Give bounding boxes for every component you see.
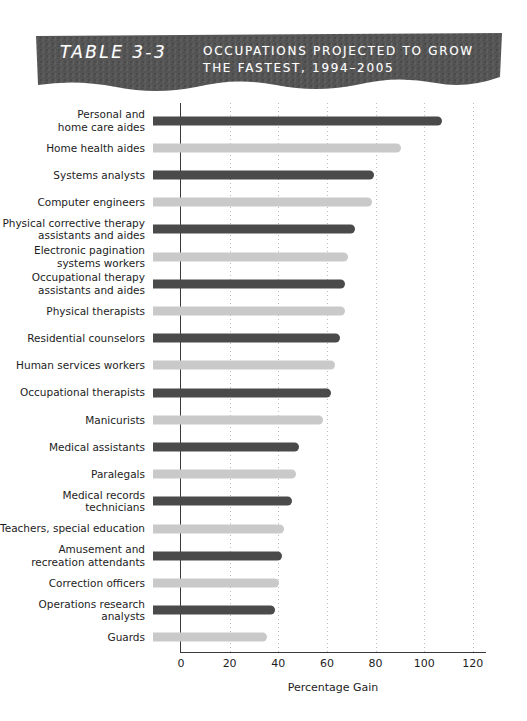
bar-row: Correction officers xyxy=(0,569,527,596)
bar-label-line1: Residential counselors xyxy=(0,332,145,345)
bar[interactable] xyxy=(153,633,267,642)
bar-label-line1: Manicurists xyxy=(0,414,145,427)
bar[interactable] xyxy=(153,170,374,179)
bar-label-line2: analysts xyxy=(0,610,145,623)
x-axis-ticks: 020406080100120 xyxy=(181,657,485,673)
x-tick-label-20: 20 xyxy=(223,657,237,670)
bar[interactable] xyxy=(153,524,284,533)
bar-chart: Personal andhome care aidesHome health a… xyxy=(0,103,527,721)
bar-row: Paralegals xyxy=(0,461,527,488)
bar-label-line1: Guards xyxy=(0,631,145,644)
bar-track xyxy=(153,491,527,511)
bar-label-line1: Personal and xyxy=(0,108,145,121)
bar-track xyxy=(153,219,527,239)
bar[interactable] xyxy=(153,334,340,343)
bar-row: Home health aides xyxy=(0,134,527,161)
x-tick-label-40: 40 xyxy=(271,657,285,670)
bar-track xyxy=(153,165,527,185)
bar[interactable] xyxy=(153,143,401,152)
bar[interactable] xyxy=(153,551,282,560)
bar[interactable] xyxy=(153,606,275,615)
bar-label: Medical assistants xyxy=(0,441,153,454)
bar-label: Personal andhome care aides xyxy=(0,108,153,133)
bar-label: Systems analysts xyxy=(0,169,153,182)
bar-row: Human services workers xyxy=(0,352,527,379)
bar-row: Medical assistants xyxy=(0,433,527,460)
bar[interactable] xyxy=(153,497,292,506)
bar[interactable] xyxy=(153,306,345,315)
bar-row: Occupational therapists xyxy=(0,379,527,406)
bar-label-line1: Electronic pagination xyxy=(0,244,145,257)
bar-label-line2: assistants and aides xyxy=(0,284,145,297)
bar[interactable] xyxy=(153,578,279,587)
bar-label-line1: Correction officers xyxy=(0,577,145,590)
bar-label-line1: Teachers, special education xyxy=(0,522,145,535)
bar-row: Medical recordstechnicians xyxy=(0,488,527,515)
bar-track xyxy=(153,192,527,212)
bar-track xyxy=(153,274,527,294)
bar-label-line1: Operations research xyxy=(0,598,145,611)
bar[interactable] xyxy=(153,415,323,424)
bar[interactable] xyxy=(153,279,345,288)
x-tick-label-0: 0 xyxy=(178,657,185,670)
bar-label: Operations researchanalysts xyxy=(0,598,153,623)
bar[interactable] xyxy=(153,116,442,125)
bar-row: Amusement andrecreation attendants xyxy=(0,542,527,569)
bar-track xyxy=(153,111,527,131)
bar-row: Physical therapists xyxy=(0,297,527,324)
bar-track xyxy=(153,138,527,158)
bar-label: Physical corrective therapyassistants an… xyxy=(0,217,153,242)
bar-track xyxy=(153,546,527,566)
bar-label: Medical recordstechnicians xyxy=(0,489,153,514)
bar-label: Human services workers xyxy=(0,359,153,372)
bar-label: Teachers, special education xyxy=(0,522,153,535)
bar-track xyxy=(153,600,527,620)
bar[interactable] xyxy=(153,225,355,234)
bar-row: Residential counselors xyxy=(0,325,527,352)
bar-label-line1: Physical corrective therapy xyxy=(0,217,145,230)
bar-label-line1: Occupational therapy xyxy=(0,271,145,284)
bar-label-line1: Human services workers xyxy=(0,359,145,372)
bar-row: Electronic paginationsystems workers xyxy=(0,243,527,270)
bar-row: Manicurists xyxy=(0,406,527,433)
bar-row: Systems analysts xyxy=(0,161,527,188)
bar-label-line2: home care aides xyxy=(0,121,145,134)
x-tick-label-80: 80 xyxy=(369,657,383,670)
bar-track xyxy=(153,464,527,484)
bar-row: Operations researchanalysts xyxy=(0,597,527,624)
bar-label: Residential counselors xyxy=(0,332,153,345)
bar-label: Manicurists xyxy=(0,414,153,427)
bar-label: Occupational therapyassistants and aides xyxy=(0,271,153,296)
bar-row: Computer engineers xyxy=(0,189,527,216)
bar-label-line1: Physical therapists xyxy=(0,305,145,318)
bar-track xyxy=(153,355,527,375)
bar-track xyxy=(153,410,527,430)
bar-label-line1: Systems analysts xyxy=(0,169,145,182)
bar[interactable] xyxy=(153,198,372,207)
bar-label: Amusement andrecreation attendants xyxy=(0,543,153,568)
bar[interactable] xyxy=(153,470,296,479)
bar-row: Personal andhome care aides xyxy=(0,107,527,134)
x-tick-label-60: 60 xyxy=(320,657,334,670)
bar-label: Paralegals xyxy=(0,468,153,481)
bar[interactable] xyxy=(153,388,331,397)
bar-label-line2: recreation attendants xyxy=(0,556,145,569)
bar[interactable] xyxy=(153,361,335,370)
bar-label-line1: Medical assistants xyxy=(0,441,145,454)
bar-label-line1: Occupational therapists xyxy=(0,386,145,399)
bar-label: Occupational therapists xyxy=(0,386,153,399)
bar-rows: Personal andhome care aidesHome health a… xyxy=(0,103,527,652)
bar-row: Teachers, special education xyxy=(0,515,527,542)
bar-label-line1: Computer engineers xyxy=(0,196,145,209)
bar-row: Occupational therapyassistants and aides xyxy=(0,270,527,297)
bar[interactable] xyxy=(153,252,348,261)
bar-track xyxy=(153,247,527,267)
bar-label: Correction officers xyxy=(0,577,153,590)
bar-label-line1: Amusement and xyxy=(0,543,145,556)
banner-shape xyxy=(36,33,502,95)
bar-label-line1: Home health aides xyxy=(0,142,145,155)
x-tick-label-120: 120 xyxy=(462,657,483,670)
bar-label: Guards xyxy=(0,631,153,644)
bar[interactable] xyxy=(153,442,299,451)
bar-label-line2: assistants and aides xyxy=(0,229,145,242)
